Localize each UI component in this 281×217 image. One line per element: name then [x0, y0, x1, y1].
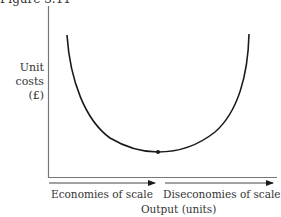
economies-of-scale-label: Economies of scale [51, 188, 153, 200]
y-label-line-1: Unit [0, 61, 44, 75]
x-axis-label: Output (units) [141, 203, 216, 215]
y-axis-label: Unit costs (£) [0, 61, 44, 103]
chart-canvas [0, 0, 281, 217]
diseconomies-of-scale-label: Diseconomies of scale [163, 188, 281, 200]
y-label-line-3: (£) [0, 89, 44, 103]
cost-curve [67, 34, 249, 152]
economies-of-scale-figure: Figure 3.11 Unit costs (£) Economies of … [0, 0, 281, 217]
minimum-point-dot [156, 150, 160, 154]
y-label-line-2: costs [0, 75, 44, 89]
